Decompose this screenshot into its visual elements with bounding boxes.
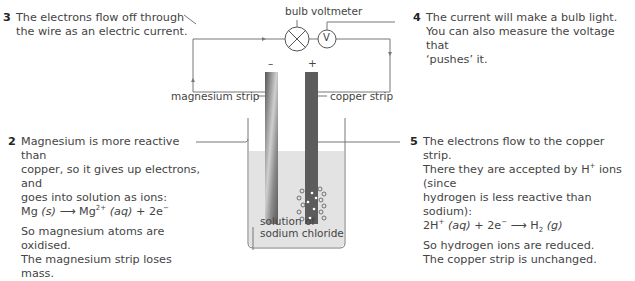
positive-terminal: +: [308, 57, 317, 69]
bulb-label: bulb: [285, 5, 308, 17]
current-arrow-right: [388, 52, 392, 56]
note-3: 3 The electrons flow off through the wir…: [3, 11, 193, 39]
equation-oxidation: Mg (s) ⟶ Mg2+ (aq) + 2e−: [21, 205, 208, 219]
solution-label: solution of sodium chloride: [260, 215, 344, 239]
note-5: 5 The electrons flow to the copper strip…: [410, 135, 635, 267]
magnesium-strip: [265, 72, 278, 224]
copper-strip: [305, 72, 318, 224]
note-2: 2 Magnesium is more reactive than copper…: [8, 135, 208, 281]
copper-strip-label: copper strip: [330, 90, 393, 102]
negative-terminal: –: [268, 57, 273, 69]
voltmeter-label: voltmeter: [311, 5, 362, 17]
voltmeter-symbol: V: [323, 32, 330, 43]
bulb-icon: [285, 20, 309, 51]
equation-reduction: 2H+ (aq) + 2e− ⟶ H2 (g): [423, 219, 635, 233]
current-arrow-top: [262, 37, 266, 41]
current-arrow-left: [191, 78, 195, 82]
magnesium-strip-label: magnesium strip: [171, 90, 260, 102]
note-4: 4 The current will make a bulb light. Yo…: [413, 11, 635, 67]
